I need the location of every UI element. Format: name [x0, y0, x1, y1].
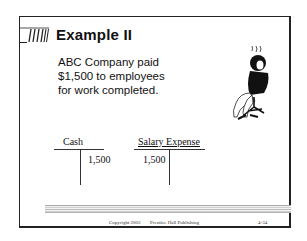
slide-body: ABC Company paid $1,500 to employees for… — [58, 55, 165, 97]
t-account-vline — [169, 149, 170, 185]
slide-title: Example II — [56, 26, 132, 43]
body-line: $1,500 to employees — [58, 69, 165, 83]
body-line: ABC Company paid — [58, 55, 165, 69]
t-account-title: Salary Expense — [138, 136, 200, 147]
decorative-band — [45, 205, 291, 213]
t-account-hline — [54, 149, 104, 150]
t-account-debit: 1,500 — [143, 154, 166, 165]
footer-publisher: Prentice Hall Publishing — [150, 220, 199, 225]
t-account-title: Cash — [63, 136, 83, 147]
footer-copyright: Copyright 2003 — [109, 220, 141, 225]
t-account-vline — [80, 149, 81, 185]
person-in-chair-icon — [230, 45, 290, 125]
body-line: for work completed. — [58, 83, 165, 97]
striped-logo-icon — [19, 27, 49, 43]
t-account-credit: 1,500 — [88, 154, 111, 165]
footer-page-number: 4-34 — [258, 220, 267, 225]
